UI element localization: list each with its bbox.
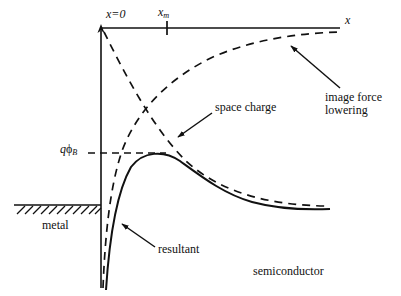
resultant-label: resultant <box>158 243 199 256</box>
x-axis-label: x <box>345 14 350 27</box>
arrow-space-charge <box>178 113 212 137</box>
space-charge-label: space charge <box>215 101 276 114</box>
metal-label: metal <box>42 219 69 232</box>
image-force-line1: image force <box>325 90 382 104</box>
arrow-resultant <box>122 224 155 247</box>
barrier-label-sub: B <box>72 148 77 157</box>
barrier-height-label: qϕB <box>60 143 77 157</box>
origin-label: x=0 <box>106 8 125 21</box>
arrow-image-force-lowering <box>291 46 340 88</box>
xm-label-sub: m <box>163 11 169 20</box>
curve-space-charge <box>104 32 325 206</box>
image-force-lowering-label: image forcelowering <box>325 91 382 118</box>
xm-label: xm <box>158 6 169 20</box>
semiconductor-label: semiconductor <box>253 265 324 278</box>
image-force-line2: lowering <box>325 103 368 117</box>
metal-hatching <box>17 206 101 214</box>
